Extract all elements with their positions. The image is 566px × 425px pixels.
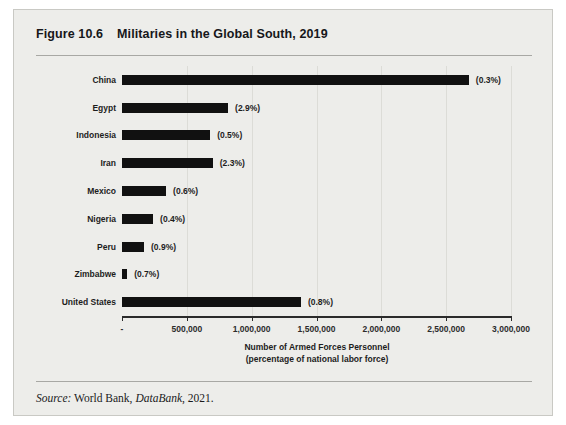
bar-category-label-wrap: Indonesia — [39, 122, 118, 150]
source-note: Source: World Bank, DataBank, 2021. — [36, 392, 214, 404]
source-year: , 2021. — [182, 392, 214, 404]
chart-bar — [122, 130, 210, 140]
chart-bar-row: Zimbabwe(0.7%) — [39, 260, 529, 288]
bar-category-label-wrap: China — [39, 66, 118, 94]
source-publisher: World Bank, — [74, 392, 132, 404]
bar-value-label: (2.3%) — [220, 158, 245, 168]
x-axis-tick — [122, 316, 123, 321]
chart-bar — [122, 186, 166, 196]
bar-category-label-wrap: Mexico — [39, 177, 118, 205]
bar-category-label: Peru — [38, 242, 116, 252]
bar-value-label: (2.9%) — [235, 103, 260, 113]
x-axis-tick-label: - — [121, 324, 124, 334]
chart-bar-row: Peru(0.9%) — [39, 233, 529, 261]
bar-category-label: Nigeria — [38, 214, 116, 224]
bar-category-label: Mexico — [38, 186, 116, 196]
bar-value-label: (0.8%) — [308, 297, 333, 307]
bar-category-label-wrap: Egypt — [39, 94, 118, 122]
chart-bar-row: Indonesia(0.5%) — [39, 122, 529, 150]
bar-category-label: Zimbabwe — [38, 269, 116, 279]
bar-category-label-wrap: Peru — [39, 233, 118, 261]
x-axis-tick-label: 1,500,000 — [298, 324, 336, 334]
figure-title-text: Militaries in the Global South, 2019 — [117, 27, 328, 41]
x-axis-title-line2: (percentage of national labor force) — [122, 354, 512, 366]
chart-bar-row: China(0.3%) — [39, 66, 529, 94]
figure-number: Figure 10.6 — [36, 27, 103, 41]
source-divider — [36, 381, 532, 382]
x-axis-title-line1: Number of Armed Forces Personnel — [122, 342, 512, 354]
chart-bar-row: Nigeria(0.4%) — [39, 205, 529, 233]
bar-value-label: (0.4%) — [160, 214, 185, 224]
chart-bar — [122, 103, 228, 113]
x-axis-tick-label: 2,000,000 — [362, 324, 400, 334]
title-divider — [36, 55, 532, 56]
chart-plot-area: China(0.3%)Egypt(2.9%)Indonesia(0.5%)Ira… — [39, 66, 529, 348]
x-axis-tick-label: 2,500,000 — [427, 324, 465, 334]
x-axis-tick-label: 500,000 — [171, 324, 202, 334]
source-label: Source: — [36, 392, 71, 404]
bar-category-label: United States — [38, 297, 116, 307]
bar-value-label: (0.5%) — [217, 130, 242, 140]
bar-category-label-wrap: Iran — [39, 149, 118, 177]
bar-category-label: China — [38, 75, 116, 85]
chart-bar-row: Mexico(0.6%) — [39, 177, 529, 205]
bar-value-label: (0.3%) — [476, 75, 501, 85]
bar-category-label-wrap: Nigeria — [39, 205, 118, 233]
bar-value-label: (0.9%) — [151, 242, 176, 252]
x-axis-tick — [381, 316, 382, 321]
chart-bar — [122, 269, 127, 279]
chart-bar — [122, 297, 301, 307]
x-axis-tick — [187, 316, 188, 321]
figure-title: Figure 10.6Militaries in the Global Sout… — [36, 27, 328, 41]
bar-category-label-wrap: Zimbabwe — [39, 260, 118, 288]
bar-category-label-wrap: United States — [39, 288, 118, 316]
chart-bar — [122, 214, 153, 224]
x-axis-tick — [511, 316, 512, 321]
x-axis-title: Number of Armed Forces Personnel (percen… — [122, 342, 512, 365]
bar-category-label: Indonesia — [38, 130, 116, 140]
bar-category-label: Egypt — [38, 103, 116, 113]
bar-category-label: Iran — [38, 158, 116, 168]
x-axis-tick — [446, 316, 447, 321]
bar-value-label: (0.7%) — [134, 269, 159, 279]
figure-container: Figure 10.6Militaries in the Global Sout… — [13, 9, 553, 416]
chart-bar-row: Egypt(2.9%) — [39, 94, 529, 122]
x-axis-tick — [252, 316, 253, 321]
chart-bar — [122, 158, 213, 168]
x-axis-tick — [317, 316, 318, 321]
source-database: DataBank — [135, 392, 182, 404]
chart-bar-row: United States(0.8%) — [39, 288, 529, 316]
chart-bar-row: Iran(2.3%) — [39, 149, 529, 177]
chart-bar — [122, 75, 469, 85]
x-axis-tick-label: 3,000,000 — [492, 324, 530, 334]
chart-bar — [122, 242, 144, 252]
x-axis-tick-label: 1,000,000 — [233, 324, 271, 334]
bar-value-label: (0.6%) — [173, 186, 198, 196]
